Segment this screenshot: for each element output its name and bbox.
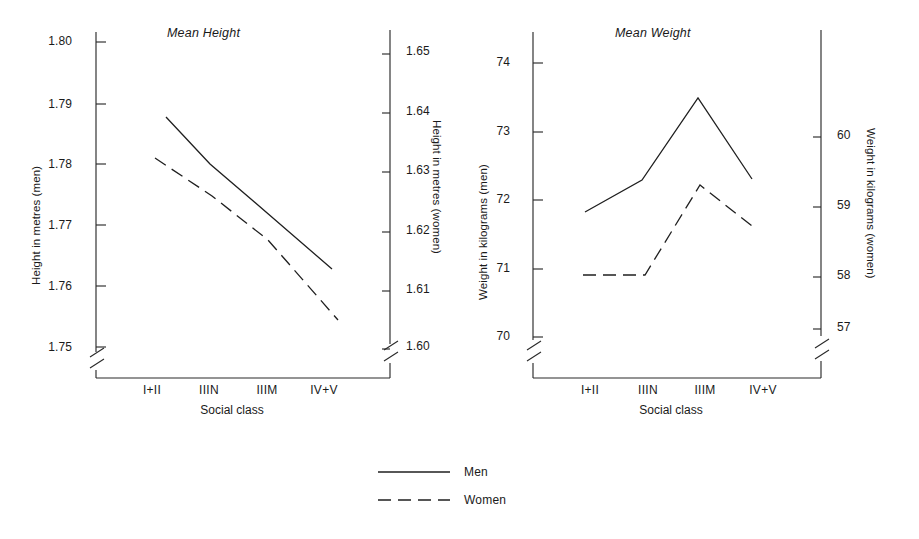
panel-mean-height: Mean Height Height in metres (men) Heigh… bbox=[0, 0, 470, 430]
plot-area-mean-weight bbox=[455, 0, 919, 430]
series-line-men bbox=[585, 98, 752, 212]
legend: Men Women bbox=[378, 462, 598, 522]
series-line-women bbox=[155, 158, 338, 320]
legend-label-women: Women bbox=[464, 493, 506, 507]
figure-canvas: Mean Height Height in metres (men) Heigh… bbox=[0, 0, 919, 539]
series-line-men bbox=[166, 117, 332, 269]
legend-swatch-solid-icon bbox=[378, 466, 450, 478]
legend-entry-men: Men bbox=[378, 462, 488, 482]
right-axis-break-icon bbox=[815, 339, 829, 359]
plot-area-mean-height bbox=[0, 0, 470, 430]
left-axis-break-icon bbox=[90, 348, 104, 368]
left-axis-break-icon bbox=[527, 341, 541, 361]
panel-mean-weight: Mean Weight Weight in kilograms (men) We… bbox=[455, 0, 919, 430]
legend-entry-women: Women bbox=[378, 490, 506, 510]
legend-label-men: Men bbox=[464, 465, 488, 479]
legend-swatch-dashed-icon bbox=[378, 494, 450, 506]
right-axis-break-icon bbox=[384, 341, 398, 361]
